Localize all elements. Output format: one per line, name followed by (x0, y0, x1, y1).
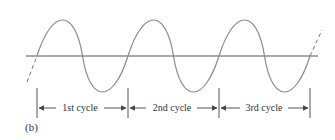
figure-caption: (b) (25, 121, 38, 134)
wave-lead-in-dashed (27, 56, 37, 82)
dimension-3rd-cycle: 3rd cycle (221, 102, 308, 113)
dimension-1st-cycle: 1st cycle (39, 102, 126, 113)
cycle-label-3: 3rd cycle (246, 102, 283, 113)
wave-lead-out-dashed (310, 30, 322, 56)
cycle-label-2: 2nd cycle (153, 102, 192, 113)
cycle-label-1: 1st cycle (62, 102, 98, 113)
dimension-2nd-cycle: 2nd cycle (130, 102, 217, 113)
sine-wave-diagram: 1st cycle 2nd cycle 3rd cycle (b) (0, 0, 335, 140)
